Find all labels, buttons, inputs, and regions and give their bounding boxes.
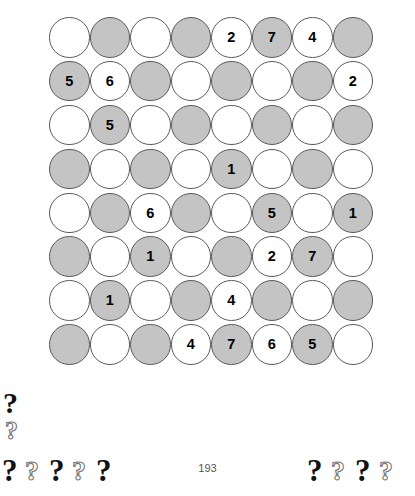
puzzle-cell[interactable] xyxy=(171,61,212,102)
puzzle-cell[interactable] xyxy=(171,193,212,234)
puzzle-cell[interactable] xyxy=(49,105,90,146)
puzzle-cell[interactable] xyxy=(130,324,171,365)
puzzle-cell[interactable] xyxy=(171,105,212,146)
puzzle-cell[interactable] xyxy=(333,236,374,277)
puzzle-cell[interactable] xyxy=(211,236,252,277)
puzzle-cell[interactable] xyxy=(292,280,333,321)
puzzle-row: 274 xyxy=(49,17,373,61)
puzzle-row: 4765 xyxy=(49,324,373,368)
page-number: 193 xyxy=(0,462,415,474)
puzzle-cell[interactable] xyxy=(252,105,293,146)
puzzle-cell[interactable] xyxy=(130,105,171,146)
puzzle-cell[interactable] xyxy=(252,280,293,321)
puzzle-cell[interactable] xyxy=(333,105,374,146)
puzzle-cell[interactable]: 5 xyxy=(90,105,131,146)
puzzle-cell[interactable] xyxy=(49,236,90,277)
puzzle-cell[interactable]: 6 xyxy=(252,324,293,365)
puzzle-row: 1 xyxy=(49,149,373,193)
puzzle-cell[interactable] xyxy=(90,193,131,234)
puzzle-cell[interactable] xyxy=(333,324,374,365)
puzzle-cell[interactable] xyxy=(333,17,374,58)
puzzle-cell[interactable] xyxy=(130,17,171,58)
puzzle-row: 5 xyxy=(49,105,373,149)
puzzle-cell[interactable]: 6 xyxy=(130,193,171,234)
puzzle-cell[interactable]: 5 xyxy=(49,61,90,102)
puzzle-cell[interactable]: 4 xyxy=(211,280,252,321)
puzzle-cell[interactable] xyxy=(49,17,90,58)
puzzle-cell[interactable] xyxy=(130,61,171,102)
puzzle-cell[interactable]: 2 xyxy=(333,61,374,102)
puzzle-cell[interactable]: 7 xyxy=(252,17,293,58)
puzzle-cell[interactable]: 7 xyxy=(211,324,252,365)
puzzle-cell[interactable] xyxy=(333,280,374,321)
puzzle-cell[interactable] xyxy=(171,149,212,190)
puzzle-cell[interactable]: 5 xyxy=(292,324,333,365)
puzzle-cell[interactable] xyxy=(252,149,293,190)
puzzle-cell[interactable] xyxy=(171,236,212,277)
puzzle-cell[interactable] xyxy=(171,280,212,321)
puzzle-cell[interactable] xyxy=(292,193,333,234)
puzzle-row: 651 xyxy=(49,193,373,237)
puzzle-cell[interactable] xyxy=(90,236,131,277)
puzzle-cell[interactable]: 2 xyxy=(211,17,252,58)
puzzle-cell[interactable]: 4 xyxy=(292,17,333,58)
puzzle-cell[interactable] xyxy=(292,149,333,190)
puzzle-cell[interactable] xyxy=(292,105,333,146)
question-mark-artifact: ? xyxy=(5,418,18,444)
puzzle-cell[interactable]: 4 xyxy=(171,324,212,365)
puzzle-cell[interactable] xyxy=(90,324,131,365)
puzzle-cell[interactable] xyxy=(292,61,333,102)
puzzle-cell[interactable] xyxy=(252,61,293,102)
puzzle-cell[interactable]: 5 xyxy=(252,193,293,234)
puzzle-cell[interactable] xyxy=(130,149,171,190)
puzzle-cell[interactable] xyxy=(211,105,252,146)
puzzle-cell[interactable] xyxy=(171,17,212,58)
puzzle-row: 562 xyxy=(49,61,373,105)
puzzle-cell[interactable]: 7 xyxy=(292,236,333,277)
puzzle-cell[interactable] xyxy=(130,280,171,321)
puzzle-cell[interactable] xyxy=(211,61,252,102)
puzzle-cell[interactable]: 1 xyxy=(130,236,171,277)
puzzle-cell[interactable]: 1 xyxy=(90,280,131,321)
puzzle-cell[interactable] xyxy=(211,193,252,234)
puzzle-cell[interactable] xyxy=(49,149,90,190)
puzzle-cell[interactable] xyxy=(90,17,131,58)
puzzle-row: 14 xyxy=(49,280,373,324)
puzzle-cell[interactable]: 1 xyxy=(333,193,374,234)
puzzle-cell[interactable] xyxy=(49,280,90,321)
puzzle-cell[interactable] xyxy=(333,149,374,190)
puzzle-cell[interactable] xyxy=(90,149,131,190)
puzzle-cell[interactable] xyxy=(49,193,90,234)
question-mark-artifact: ? xyxy=(3,388,18,418)
puzzle-cell[interactable]: 2 xyxy=(252,236,293,277)
puzzle-cell[interactable] xyxy=(49,324,90,365)
puzzle-grid: 27456251651127144765 xyxy=(49,17,373,369)
puzzle-cell[interactable]: 6 xyxy=(90,61,131,102)
puzzle-cell[interactable]: 1 xyxy=(211,149,252,190)
puzzle-row: 127 xyxy=(49,236,373,280)
